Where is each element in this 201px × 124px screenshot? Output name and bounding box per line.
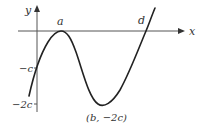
tick-label-neg-c: −c: [19, 63, 33, 74]
label-min-point: (b, −2c): [86, 112, 127, 123]
y-axis-label: y: [24, 4, 32, 17]
tick-label-neg-2c: −2c: [12, 99, 33, 110]
x-axis-arrow-icon: [178, 28, 185, 34]
cubic-graph: x y −c −2c a d (b, −2c): [0, 0, 201, 124]
label-d: d: [138, 14, 145, 27]
x-axis-label: x: [189, 25, 196, 38]
cubic-curve: [29, 8, 155, 105]
y-axis-arrow-icon: [34, 5, 40, 12]
label-a: a: [57, 15, 64, 28]
